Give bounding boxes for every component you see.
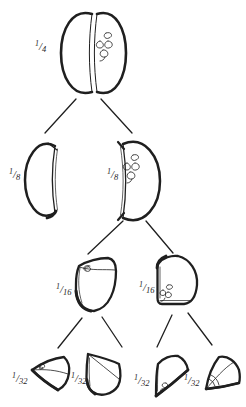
fraction-label-eighth-right: 1/8 [107, 166, 118, 182]
illustration-thirtysecond-4 [206, 357, 240, 389]
tree-edge-quarter-eighth-left [45, 99, 76, 133]
illustration-thirtysecond-2 [87, 354, 121, 395]
tree-edge-sixteenth-ts2 [102, 317, 122, 347]
fraction-label-eighth-left: 1/8 [9, 166, 20, 182]
illustration-eighth-right [118, 142, 160, 220]
fraction-label-quarter: 1/4 [35, 38, 46, 54]
tree-edges [45, 99, 212, 348]
wedge-outline [87, 354, 121, 395]
fraction-label-sixteenth-left: 1/16 [56, 281, 72, 297]
illustration-thirtysecond-1 [32, 357, 69, 390]
illustration-sixteenth-left [76, 258, 116, 311]
half-fill [61, 13, 92, 93]
tree-edge-sixteenth-ts4 [188, 313, 212, 345]
illustration-eighth-left [25, 143, 58, 218]
fraction-label-sixteenth-right: 1/16 [139, 279, 155, 295]
piece-outline [158, 256, 198, 304]
tree-edge-eighth-sixteenth-left [88, 221, 123, 254]
tree-edge-quarter-eighth-right [101, 99, 132, 133]
half-fill [123, 142, 160, 220]
fraction-denominator: 16 [146, 285, 155, 295]
tree-edge-eighth-sixteenth-right [146, 221, 173, 253]
fraction-label-thirtysecond-2: 1/32 [71, 370, 87, 386]
fraction-label-thirtysecond-3: 1/32 [134, 372, 150, 388]
fraction-denominator: 32 [78, 376, 87, 386]
diagram-page: 1/4 1/8 1/8 1/16 1/16 1/32 1/32 1/32 1/3… [0, 0, 246, 407]
fraction-denominator: 32 [19, 376, 28, 386]
fraction-denominator: 8 [16, 172, 20, 182]
diagram-canvas [0, 0, 246, 407]
inner-face-line [55, 149, 57, 210]
illustration-sixteenth-right [157, 256, 197, 304]
tree-edge-sixteenth-ts1 [58, 318, 82, 348]
illustration-quarter [61, 13, 126, 93]
fraction-label-thirtysecond-1: 1/32 [12, 370, 28, 386]
fraction-denominator: 4 [42, 44, 46, 54]
tree-edge-sixteenth-ts3 [157, 315, 172, 347]
fraction-denominator: 32 [141, 378, 150, 388]
half-fill [25, 144, 55, 216]
fraction-denominator: 16 [63, 287, 72, 297]
inner-face-line [121, 147, 124, 215]
fraction-label-thirtysecond-4: 1/32 [184, 372, 200, 388]
fraction-denominator: 32 [191, 378, 200, 388]
fraction-denominator: 8 [114, 172, 118, 182]
